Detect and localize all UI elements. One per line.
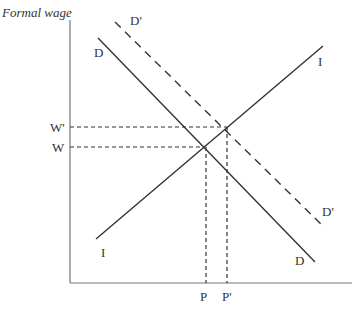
y-axis-label: Formal wage xyxy=(1,5,72,20)
d-prime-label-start: D' xyxy=(130,13,142,28)
demand-curve-d xyxy=(98,38,315,262)
p-prime-tick-label: P' xyxy=(222,289,232,304)
i-label-start: I xyxy=(101,245,105,260)
demand-curve-d-prime xyxy=(115,22,325,228)
p-tick-label: P xyxy=(200,289,207,304)
d-label-end: D xyxy=(295,253,304,268)
w-tick-label: W xyxy=(52,140,65,155)
w-prime-tick-label: W' xyxy=(50,120,65,135)
i-label-end: I xyxy=(318,54,322,69)
curve-i xyxy=(96,46,323,239)
d-prime-label-end: D' xyxy=(322,204,334,219)
d-label-start: D xyxy=(94,45,103,60)
supply-demand-diagram: Formal wage D D' I I D' D W' W P P' xyxy=(0,0,361,313)
